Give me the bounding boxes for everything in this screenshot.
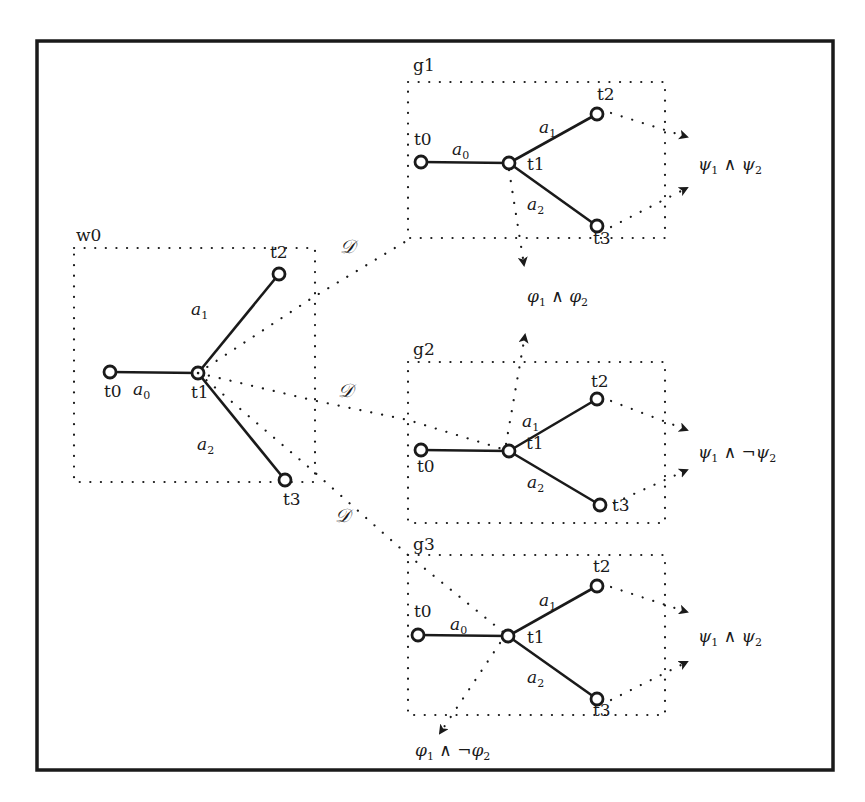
outcome-phi1-and-phi2: φ1 ∧ φ2 bbox=[527, 286, 588, 309]
node-t1-label: t1 bbox=[527, 154, 545, 174]
node-t0 bbox=[104, 366, 116, 378]
node-t3-label: t3 bbox=[612, 495, 630, 515]
edge-a1 bbox=[198, 274, 279, 373]
mapping-to-g2 bbox=[198, 373, 509, 451]
goal-g2: g2 t0 t1 t2 t3 a1 a2 ψ1 ∧ ¬ψ2 bbox=[408, 335, 776, 523]
edge-a2 bbox=[508, 636, 597, 699]
goal-g3: g3 t0 t1 t2 t3 a0 a1 a2 ψ1 ∧ ψ2 bbox=[408, 534, 762, 733]
d-mappings: 𝒟 𝒟 𝒟 bbox=[198, 235, 509, 636]
edge-a0 bbox=[421, 162, 509, 163]
node-t1-label: t1 bbox=[191, 382, 209, 402]
node-t1 bbox=[502, 630, 514, 642]
edge-a2-label: a2 bbox=[197, 434, 214, 457]
goal-label: g1 bbox=[413, 55, 435, 75]
node-t3 bbox=[279, 474, 291, 486]
outcome-psi1-and-psi2: ψ1 ∧ ψ2 bbox=[698, 154, 762, 177]
edge-a1-label: a1 bbox=[539, 117, 556, 140]
edge-t0-t1 bbox=[421, 450, 509, 451]
node-t0-label: t0 bbox=[417, 456, 435, 476]
node-t2-label: t2 bbox=[593, 556, 611, 576]
goal-label: g3 bbox=[413, 534, 435, 554]
node-t0 bbox=[415, 444, 427, 456]
mapping-g2-label: 𝒟 bbox=[338, 379, 357, 401]
node-t2 bbox=[591, 393, 603, 405]
planning-diagram: w0 t0 t1 t2 t3 a0 a1 a2 𝒟 𝒟 𝒟 g1 bbox=[0, 0, 865, 802]
outer-frame bbox=[37, 41, 833, 770]
edge-a2-label: a2 bbox=[527, 667, 544, 690]
edge-a2 bbox=[509, 163, 597, 226]
node-t3-label: t3 bbox=[593, 700, 611, 720]
edge-a0-label: a0 bbox=[452, 139, 469, 162]
world-w0: w0 t0 t1 t2 t3 a0 a1 a2 bbox=[74, 225, 315, 509]
node-t1-label: t1 bbox=[526, 433, 544, 453]
edge-a0-label: a0 bbox=[133, 379, 150, 402]
mapping-g1-label: 𝒟 bbox=[340, 235, 359, 257]
world-label: w0 bbox=[76, 225, 101, 245]
mapping-g3-label: 𝒟 bbox=[335, 504, 354, 526]
goal-g1: g1 t0 t1 t2 t3 a0 a1 a2 ψ1 ∧ ψ2 bbox=[408, 55, 762, 265]
node-t3-label: t3 bbox=[593, 228, 611, 248]
node-t1-label: t1 bbox=[527, 627, 545, 647]
t1-to-phi-arrow bbox=[440, 643, 500, 733]
edge-a1-label: a1 bbox=[522, 411, 539, 434]
outcome-psi1-and-not-psi2: ψ1 ∧ ¬ψ2 bbox=[698, 442, 776, 465]
node-t2-label: t2 bbox=[597, 84, 615, 104]
node-t3 bbox=[594, 499, 606, 511]
t3-to-outcome-arrow bbox=[611, 188, 687, 227]
t2-to-outcome-arrow bbox=[611, 587, 687, 612]
outcome-psi1-and-psi2: ψ1 ∧ ψ2 bbox=[698, 626, 762, 649]
node-t0-label: t0 bbox=[104, 381, 122, 401]
outcome-phi1-and-not-phi2: φ1 ∧ ¬φ2 bbox=[415, 740, 490, 763]
mapping-to-g1 bbox=[198, 240, 408, 373]
edge-a0-label: a0 bbox=[450, 614, 467, 637]
edge-a1-label: a1 bbox=[191, 299, 208, 322]
mapping-to-g3 bbox=[198, 373, 508, 636]
node-t3-label: t3 bbox=[283, 489, 301, 509]
t3-to-outcome-arrow bbox=[611, 662, 687, 700]
t2-to-outcome-arrow bbox=[611, 401, 687, 430]
goal-label: g2 bbox=[413, 339, 435, 359]
node-t2 bbox=[273, 268, 285, 280]
node-t1 bbox=[503, 157, 515, 169]
node-t0 bbox=[412, 629, 424, 641]
node-t2-label: t2 bbox=[270, 242, 288, 262]
node-t2-label: t2 bbox=[591, 371, 609, 391]
node-t0-label: t0 bbox=[414, 129, 432, 149]
edge-a1-label: a1 bbox=[539, 590, 556, 613]
edge-a2-label: a2 bbox=[527, 194, 544, 217]
edge-a2 bbox=[198, 373, 285, 480]
node-t0-label: t0 bbox=[414, 601, 432, 621]
node-t0 bbox=[415, 156, 427, 168]
edge-a2-label: a2 bbox=[527, 472, 544, 495]
edge-a0 bbox=[110, 372, 198, 373]
t1-to-phi-arrow bbox=[509, 170, 524, 265]
t3-to-outcome-arrow bbox=[614, 470, 687, 503]
t2-to-outcome-arrow bbox=[611, 113, 687, 137]
node-t2 bbox=[591, 580, 603, 592]
node-t1 bbox=[503, 445, 515, 457]
node-t2 bbox=[591, 108, 603, 120]
edge-a2 bbox=[509, 451, 600, 505]
